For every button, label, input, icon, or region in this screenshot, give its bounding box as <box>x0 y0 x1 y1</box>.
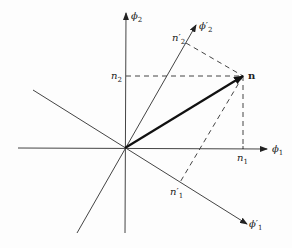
vector-n <box>125 76 243 148</box>
n1-prime-projection-line <box>179 76 243 184</box>
phi2-axis-label: ϕ2 <box>131 11 142 24</box>
vector-n-label: n <box>248 71 255 81</box>
n1-prime-label: n′1 <box>170 187 183 200</box>
phi1-axis <box>18 148 267 149</box>
phi1-prime-axis-label: ϕ′1 <box>249 219 263 232</box>
n2-prime-projection-line <box>186 43 243 76</box>
phi2-prime-axis-label: ϕ′2 <box>199 21 213 34</box>
diagram-canvas <box>0 0 292 248</box>
coordinate-rotation-diagram: ϕ2 ϕ′2 ϕ1 ϕ′1 n2 n1 n′2 n′1 n <box>0 0 292 248</box>
phi1-axis-label: ϕ1 <box>272 144 283 157</box>
phi1-prime-axis <box>33 90 247 224</box>
phi2-axis <box>125 13 126 233</box>
n2-label: n2 <box>111 71 122 84</box>
n2-prime-label: n′2 <box>172 33 185 46</box>
n1-label: n1 <box>237 153 248 166</box>
